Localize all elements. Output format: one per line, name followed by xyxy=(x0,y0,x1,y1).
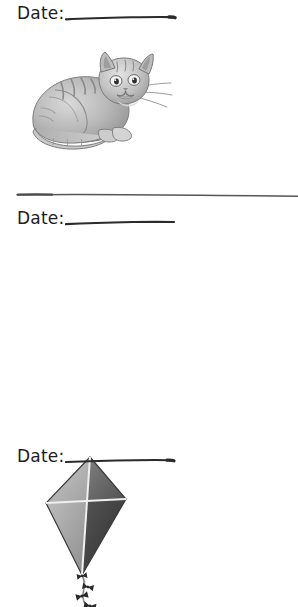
date-field-3[interactable]: Date: xyxy=(17,445,177,469)
date-underline-1[interactable] xyxy=(65,13,177,23)
journal-page: Date: xyxy=(0,0,298,607)
date-field-2[interactable]: Date: xyxy=(17,207,177,231)
date-label-2: Date: xyxy=(17,207,64,229)
cat-drawing xyxy=(25,50,173,150)
date-label-3: Date: xyxy=(17,445,64,467)
journal-entry-1: Date: xyxy=(0,0,298,199)
journal-entry-2: Date: xyxy=(0,205,298,437)
section-divider-1 xyxy=(0,191,298,199)
date-underline-3[interactable] xyxy=(65,456,177,466)
date-underline-2[interactable] xyxy=(65,218,177,228)
journal-entry-3: Date: xyxy=(0,443,298,607)
date-field-1[interactable]: Date: xyxy=(17,2,177,26)
date-label-1: Date: xyxy=(17,2,64,24)
